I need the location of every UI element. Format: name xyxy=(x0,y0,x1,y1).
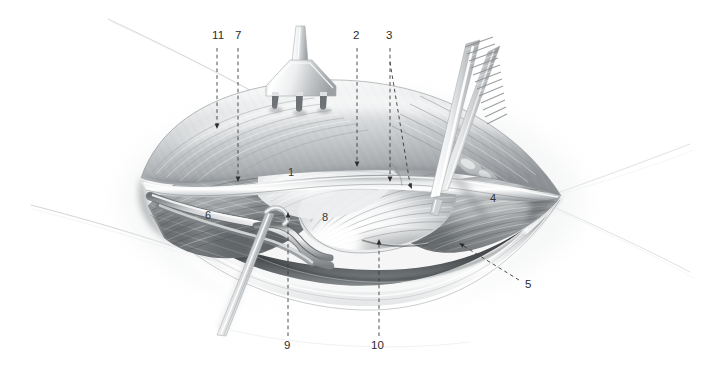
label-4: 4 xyxy=(490,192,496,204)
label-3: 3 xyxy=(386,29,393,41)
label-11: 11 xyxy=(212,29,224,41)
label-8: 8 xyxy=(322,211,328,223)
label-2: 2 xyxy=(353,29,360,41)
label-10: 10 xyxy=(371,339,384,351)
label-5: 5 xyxy=(525,278,532,290)
label-1: 1 xyxy=(288,166,294,178)
label-9: 9 xyxy=(284,339,291,351)
label-7: 7 xyxy=(235,29,242,41)
anatomical-artwork xyxy=(0,0,701,372)
label-6: 6 xyxy=(205,209,211,221)
surgical-illustration-figure: 11 7 2 3 9 10 5 1 4 6 8 xyxy=(0,0,701,372)
